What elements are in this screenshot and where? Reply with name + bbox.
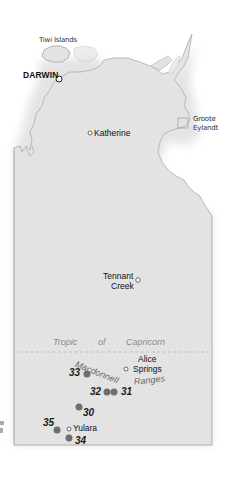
label-groote-2: Eylandt — [193, 125, 218, 132]
alice-springs-marker — [124, 367, 128, 371]
cropped-edge-mark — [0, 421, 4, 425]
tiwi-islands-shape — [42, 46, 70, 62]
label-tropic: Tropic — [53, 338, 77, 347]
cropped-edge-mark — [0, 428, 3, 433]
location-30-dot[interactable] — [76, 404, 83, 411]
label-location-32: 32 — [90, 387, 101, 397]
location-34-dot[interactable] — [66, 435, 73, 442]
label-springs: Springs — [133, 365, 162, 374]
katherine-marker — [88, 131, 92, 135]
label-alice: Alice — [138, 355, 156, 364]
label-yulara: Yulara — [73, 424, 97, 433]
label-location-33: 33 — [69, 368, 80, 378]
label-location-35: 35 — [43, 418, 54, 428]
label-groote-1: Groote — [193, 116, 216, 123]
location-35-dot[interactable] — [54, 427, 61, 434]
label-location-31: 31 — [121, 387, 132, 397]
label-tiwi-islands: Tiwi Islands — [39, 37, 77, 44]
label-tropic-of: of — [98, 338, 106, 347]
label-tennant-2: Creek — [111, 282, 134, 291]
location-31-dot[interactable] — [111, 389, 118, 396]
tennant-creek-marker — [136, 278, 140, 282]
yulara-marker — [67, 427, 71, 431]
label-location-30: 30 — [83, 408, 94, 418]
label-location-34: 34 — [75, 436, 86, 446]
label-katherine: Katherine — [94, 129, 130, 138]
label-capricorn: Capricorn — [126, 338, 165, 347]
label-darwin: DARWIN — [23, 71, 58, 80]
location-32-dot[interactable] — [104, 389, 111, 396]
label-tennant-1: Tennant — [103, 272, 133, 281]
